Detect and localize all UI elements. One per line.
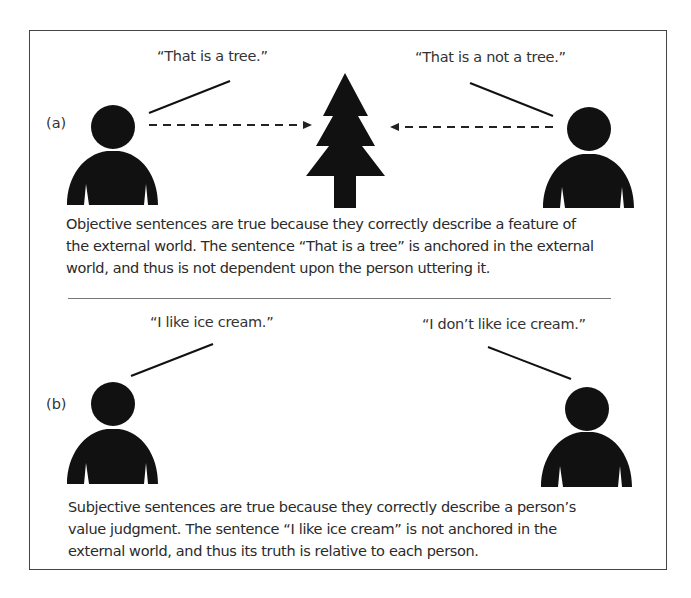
quote-i-like-ice-cream: “I like ice cream.” (150, 314, 273, 330)
quote-i-dont-like-ice-cream: “I don’t like ice cream.” (422, 316, 586, 332)
speech-line (470, 83, 553, 116)
caption-subjective: Subjective sentences are true because th… (68, 496, 576, 562)
quote-that-is-a-tree: “That is a tree.” (157, 48, 268, 64)
quote-that-is-not-a-tree: “That is a not a tree.” (415, 49, 566, 65)
speech-line (131, 344, 213, 376)
caption-line: Objective sentences are true because the… (66, 213, 594, 235)
person-icon (67, 105, 158, 205)
caption-line: the external world. The sentence “That i… (66, 235, 594, 257)
speech-line (149, 81, 230, 113)
person-icon (67, 382, 158, 484)
caption-line: external world, and thus its truth is re… (68, 540, 576, 562)
dashed-arrow-icon (149, 121, 312, 129)
person-icon (541, 387, 632, 487)
caption-objective: Objective sentences are true because the… (66, 213, 594, 279)
tree-icon (306, 73, 385, 208)
person-icon (543, 107, 634, 208)
dashed-arrow-icon (390, 123, 553, 131)
speech-line (488, 347, 571, 379)
panel-divider (68, 298, 611, 299)
panel-label-a: (a) (46, 115, 66, 131)
caption-line: world, and thus is not dependent upon th… (66, 257, 594, 279)
caption-line: value judgment. The sentence “I like ice… (68, 518, 576, 540)
panel-label-b: (b) (46, 396, 67, 412)
caption-line: Subjective sentences are true because th… (68, 496, 576, 518)
